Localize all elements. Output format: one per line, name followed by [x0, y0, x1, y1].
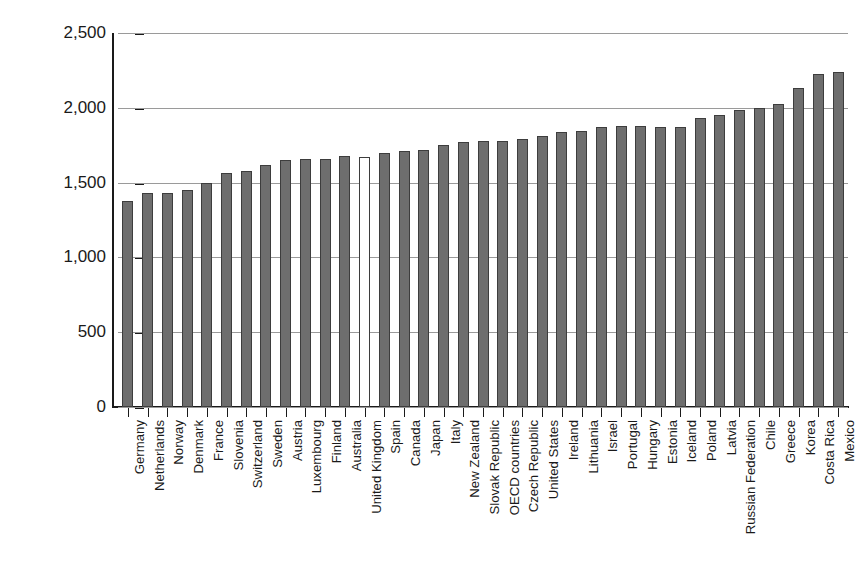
- x-tick-label-text: Portugal: [626, 420, 639, 469]
- x-tick-label-spain: Spain: [389, 420, 402, 454]
- x-tick-label-germany: Germany: [133, 420, 146, 474]
- x-tick-mark: [266, 408, 267, 417]
- bar-sweden: [260, 165, 271, 407]
- x-tick-mark: [661, 408, 662, 417]
- x-tick-label-text: Italy: [449, 420, 462, 444]
- x-tick-label-united-states: United States: [547, 420, 560, 499]
- y-tick-label: 1,000: [34, 248, 106, 265]
- x-tick-label-text: United Kingdom: [370, 420, 383, 514]
- x-tick-mark: [187, 408, 188, 417]
- bar-israel: [596, 127, 607, 408]
- bar-luxembourg: [300, 159, 311, 407]
- x-tick-mark: [759, 408, 760, 417]
- y-axis-tick-labels: 05001,0001,5002,0002,500: [30, 0, 106, 563]
- x-tick-mark: [799, 408, 800, 417]
- bar-united-states: [537, 136, 548, 407]
- x-tick-mark: [483, 408, 484, 417]
- x-tick-label-text: Estonia: [666, 420, 679, 464]
- x-tick-label-text: Japan: [429, 420, 442, 456]
- x-tick-mark: [680, 408, 681, 417]
- bar-oecd-countries: [497, 141, 508, 407]
- bar-estonia: [655, 127, 666, 408]
- x-tick-mark: [818, 408, 819, 417]
- x-tick-label-israel: Israel: [606, 420, 619, 452]
- x-tick-mark: [207, 408, 208, 417]
- x-tick-mark: [148, 408, 149, 417]
- x-tick-label-estonia: Estonia: [666, 420, 679, 464]
- bar-japan: [418, 150, 429, 407]
- bar-spain: [379, 153, 390, 407]
- bar-lithuania: [576, 131, 587, 407]
- x-tick-label-netherlands: Netherlands: [153, 420, 166, 491]
- bar-norway: [162, 193, 173, 407]
- x-tick-mark: [227, 408, 228, 417]
- x-tick-label-text: New Zealand: [468, 420, 481, 498]
- bar-austria: [280, 160, 291, 407]
- x-tick-label-france: France: [212, 420, 225, 461]
- bar-slovenia: [221, 173, 232, 407]
- x-tick-label-text: Luxembourg: [310, 420, 323, 493]
- x-tick-label-text: Canada: [409, 420, 422, 466]
- x-tick-label-latvia: Latvia: [725, 420, 738, 455]
- x-tick-label-text: Chile: [764, 420, 777, 450]
- x-axis-tick-labels: GermanyNetherlandsNorwayDenmarkFranceSlo…: [118, 420, 848, 560]
- y-tick-label: 0: [34, 398, 106, 415]
- x-tick-label-austria: Austria: [291, 420, 304, 461]
- x-tick-label-ireland: Ireland: [567, 420, 580, 460]
- x-tick-label-text: United States: [547, 420, 560, 499]
- x-tick-mark: [621, 408, 622, 417]
- y-tick-label: 1,500: [34, 174, 106, 191]
- x-tick-label-text: Sweden: [271, 420, 284, 468]
- bar-mexico: [833, 72, 844, 407]
- x-tick-mark: [404, 408, 405, 417]
- x-tick-label-luxembourg: Luxembourg: [310, 420, 323, 493]
- bar-latvia: [714, 115, 725, 407]
- bar-australia: [339, 156, 350, 407]
- x-tick-mark: [128, 408, 129, 417]
- x-tick-label-new-zealand: New Zealand: [468, 420, 481, 498]
- x-tick-mark: [542, 408, 543, 417]
- bar-ireland: [556, 132, 567, 407]
- x-tick-label-text: Austria: [291, 420, 304, 461]
- x-tick-label-sweden: Sweden: [271, 420, 284, 468]
- x-tick-label-text: Denmark: [192, 420, 205, 474]
- x-tick-label-italy: Italy: [449, 420, 462, 444]
- x-tick-mark: [562, 408, 563, 417]
- x-tick-mark: [838, 408, 839, 417]
- bar-france: [201, 183, 212, 407]
- bar-russian-federation: [734, 110, 745, 407]
- x-tick-label-text: Germany: [133, 420, 146, 474]
- x-tick-label-text: Greece: [784, 420, 797, 463]
- bar-united-kingdom: [359, 157, 370, 407]
- x-tick-mark: [167, 408, 168, 417]
- x-tick-label-poland: Poland: [705, 420, 718, 461]
- x-tick-label-text: Lithuania: [587, 420, 600, 474]
- x-tick-mark: [601, 408, 602, 417]
- x-tick-mark: [384, 408, 385, 417]
- x-tick-mark: [739, 408, 740, 417]
- x-tick-label-text: Korea: [804, 420, 817, 455]
- bar-canada: [399, 151, 410, 407]
- x-tick-label-hungary: Hungary: [646, 420, 659, 470]
- x-tick-mark: [522, 408, 523, 417]
- x-tick-mark: [424, 408, 425, 417]
- x-tick-label-text: Ireland: [567, 420, 580, 460]
- bar-series: [118, 33, 848, 407]
- x-tick-label-text: Russian Federation: [744, 420, 757, 534]
- bar-portugal: [616, 126, 627, 407]
- bar-germany: [122, 201, 133, 407]
- x-tick-label-text: Israel: [606, 420, 619, 452]
- y-tick-label: 500: [34, 323, 106, 340]
- bar-korea: [793, 88, 804, 407]
- bar-switzerland: [241, 171, 252, 407]
- bar-hungary: [635, 126, 646, 407]
- x-tick-label-text: Switzerland: [251, 420, 264, 488]
- x-tick-label-text: Slovak Republic: [488, 420, 501, 515]
- x-tick-label-greece: Greece: [784, 420, 797, 463]
- x-tick-mark: [345, 408, 346, 417]
- x-tick-label-text: Iceland: [685, 420, 698, 463]
- x-tick-label-text: Latvia: [725, 420, 738, 455]
- x-tick-label-czech-republic: Czech Republic: [527, 420, 540, 512]
- x-tick-label-costa-rica: Costa Rica: [823, 420, 836, 485]
- x-tick-label-australia: Australia: [350, 420, 363, 471]
